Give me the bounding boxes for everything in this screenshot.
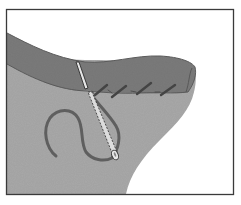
sewing-illustration [0,0,241,205]
